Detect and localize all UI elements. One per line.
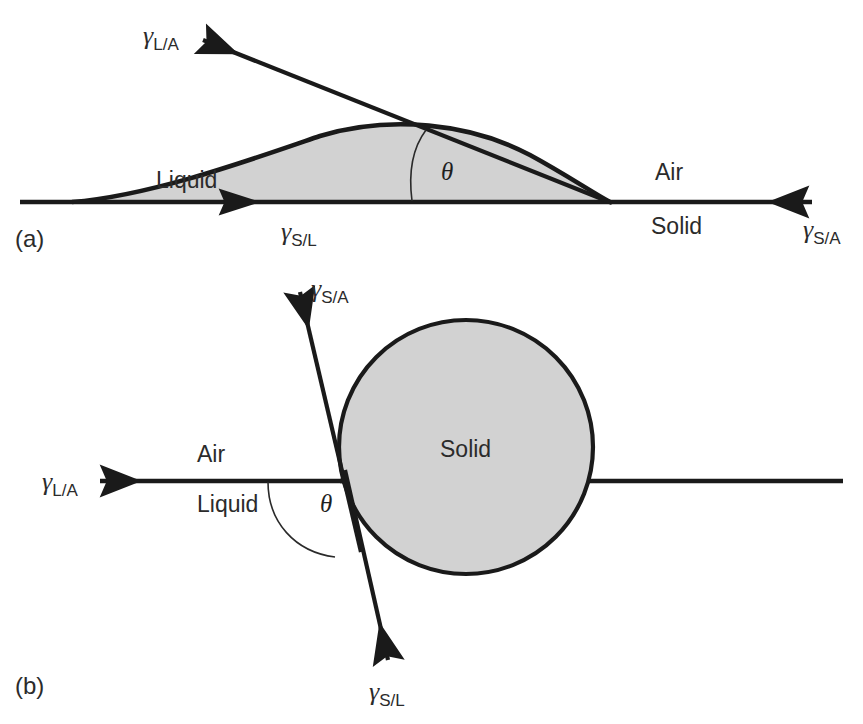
label-gamma-la-a: γL/A <box>143 21 179 54</box>
label-air-b: Air <box>197 441 225 467</box>
panel-a: Liquid Air Solid θ γL/A γS/L γS/A (a) <box>15 21 841 252</box>
gamma-subscript: S/A <box>813 229 841 248</box>
label-theta-a: θ <box>441 158 453 185</box>
label-gamma-la-b: γL/A <box>42 467 78 500</box>
label-gamma-sa-b: γS/A <box>311 274 349 307</box>
label-gamma-sl-a: γS/L <box>281 217 317 250</box>
gamma-subscript: S/A <box>321 288 349 307</box>
panel-label-b: (b) <box>15 672 44 699</box>
label-liquid-a: Liquid <box>156 167 217 193</box>
gamma-subscript: S/L <box>379 691 405 710</box>
label-liquid-b: Liquid <box>197 491 258 517</box>
label-solid-b: Solid <box>440 436 491 462</box>
label-gamma-sa-a: γS/A <box>803 215 841 248</box>
label-solid-a: Solid <box>651 213 702 239</box>
panel-b: Air Liquid Solid θ γS/A γL/A γS/L (b) <box>15 274 843 710</box>
gamma-subscript: S/L <box>291 231 317 250</box>
label-air-a: Air <box>655 159 683 185</box>
label-theta-b: θ <box>320 490 332 517</box>
panel-label-a: (a) <box>15 225 44 252</box>
label-gamma-sl-b: γS/L <box>369 677 405 710</box>
figure-root: Liquid Air Solid θ γL/A γS/L γS/A (a) <box>0 0 863 724</box>
gamma-subscript: L/A <box>153 35 179 54</box>
gamma-subscript: L/A <box>52 481 78 500</box>
contact-angle-diagram: Liquid Air Solid θ γL/A γS/L γS/A (a) <box>0 0 863 724</box>
